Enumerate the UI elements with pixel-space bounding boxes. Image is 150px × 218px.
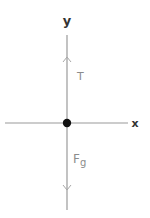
free-body-diagram: y x T Fg bbox=[0, 0, 150, 218]
tension-label: T bbox=[76, 70, 84, 83]
gravity-label-sub: g bbox=[80, 157, 86, 168]
origin-dot bbox=[63, 119, 71, 127]
x-axis-label: x bbox=[131, 117, 138, 130]
gravity-label: Fg bbox=[73, 152, 86, 168]
y-axis-label: y bbox=[63, 13, 72, 28]
